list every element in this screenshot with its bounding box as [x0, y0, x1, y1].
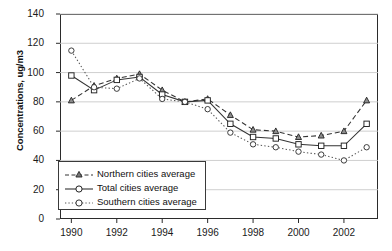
data-point-square: [228, 121, 233, 126]
legend-item-total: Total cities average: [64, 180, 200, 194]
data-point-triangle: [250, 126, 256, 132]
data-point-square: [364, 121, 369, 126]
data-point-square: [69, 73, 74, 78]
legend-key-total-solid-square: [64, 181, 94, 193]
data-point-square: [273, 136, 278, 141]
data-point-circle: [319, 152, 324, 157]
legend-label-total: Total cities average: [94, 182, 178, 193]
data-point-square: [205, 98, 210, 103]
data-point-circle: [296, 149, 301, 154]
data-point-circle: [364, 145, 369, 150]
data-point-triangle: [68, 97, 74, 103]
data-point-circle: [114, 86, 119, 91]
data-point-circle: [182, 99, 187, 104]
chart-legend: Northern cities average Total cities ave…: [58, 161, 206, 210]
legend-item-northern: Northern cities average: [64, 166, 200, 180]
data-point-triangle: [227, 112, 233, 118]
data-point-circle: [160, 96, 165, 101]
data-point-square: [250, 134, 255, 139]
data-point-circle: [250, 142, 255, 147]
legend-label-northern: Northern cities average: [94, 168, 195, 179]
legend-label-southern: Southern cities average: [94, 196, 197, 207]
data-point-circle: [228, 130, 233, 135]
data-point-triangle: [364, 97, 370, 103]
legend-key-southern-dotted-circle: [64, 195, 94, 207]
data-point-square: [296, 142, 301, 147]
data-point-circle: [273, 145, 278, 150]
data-point-circle: [91, 85, 96, 90]
data-point-square: [114, 77, 119, 82]
legend-key-northern-dashed-triangle: [64, 167, 94, 179]
data-point-circle: [69, 48, 74, 53]
chart-canvas: [0, 0, 392, 251]
legend-item-southern: Southern cities average: [64, 194, 200, 208]
chart-figure: Concentrations, ug/m3 020406080100120140…: [0, 0, 392, 251]
data-point-circle: [137, 76, 142, 81]
series-line-triangle: [71, 74, 366, 137]
data-point-square: [319, 143, 324, 148]
data-point-circle: [341, 158, 346, 163]
data-point-square: [341, 143, 346, 148]
data-point-circle: [205, 106, 210, 111]
